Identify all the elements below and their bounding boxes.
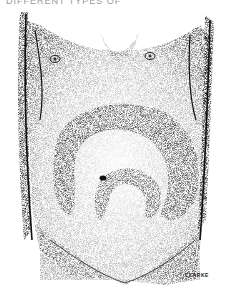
artist-signature: CLARKE <box>185 272 209 278</box>
abdomen-illustration <box>0 0 245 295</box>
navel <box>100 176 107 181</box>
